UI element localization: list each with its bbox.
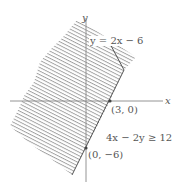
point-label-0-neg6: (0, −6) (88, 150, 123, 160)
point-label-3-0: (3, 0) (111, 105, 138, 115)
y-axis-label: y (82, 13, 88, 23)
inequality-graph: y x y = 2x − 6 (3, 0) 4x − 2y ≥ 12 (0, −… (0, 0, 175, 187)
point-3-0-marker (108, 99, 111, 102)
inequality-label: 4x − 2y ≥ 12 (106, 133, 172, 143)
boundary-equation-label: y = 2x − 6 (89, 36, 145, 46)
x-axis-label: x (165, 96, 171, 106)
